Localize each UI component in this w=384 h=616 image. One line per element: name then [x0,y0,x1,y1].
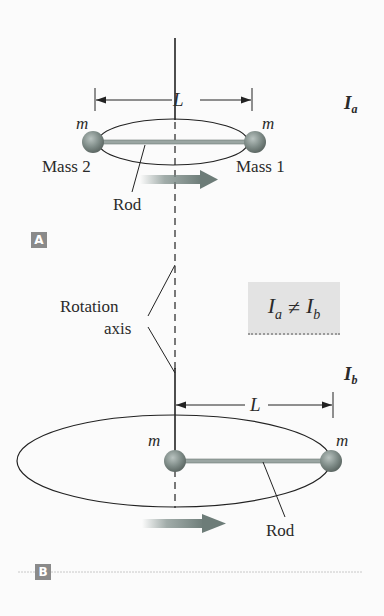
panel-tag-b: B [35,564,51,580]
mass-symbol-right-b: m [336,432,348,449]
comparison-left: Ia [268,293,282,323]
mass-right-sphere-b [320,450,342,472]
length-label-a: L [173,90,184,109]
rod-b-leader [263,462,285,517]
rod-label-b: Rod [266,522,294,539]
mass-symbol-left-b: m [148,432,160,449]
mass-left-sphere-b [164,450,186,472]
inertia-label-a: Ia [344,93,357,115]
rotation-axis-leaders [148,265,175,373]
rotation-axis-label-line1: Rotation [60,298,119,315]
mass-1-label: Mass 1 [236,158,285,175]
not-equal-operator: ≠ [288,295,300,321]
mass-2-sphere [82,131,104,153]
rotation-axis-label-line2: axis [104,320,131,337]
rod-label-a: Rod [113,196,141,213]
inertia-comparison-box: Ia ≠ Ib [248,282,340,335]
rotation-arrow-a [140,170,218,189]
rod-a [97,140,253,144]
mass-2-label: Mass 2 [42,158,91,175]
rotation-arrow-b [142,514,226,533]
mass-1-sphere [244,131,266,153]
comparison-right: Ib [306,293,320,323]
inertia-label-b: Ib [344,364,357,386]
length-label-b: L [250,395,261,414]
rod-a-leader [132,145,145,192]
panel-tag-a: A [31,232,47,248]
mass-symbol-right-a: m [262,115,274,132]
rod-b [177,459,332,463]
mass-symbol-left-a: m [76,115,88,132]
